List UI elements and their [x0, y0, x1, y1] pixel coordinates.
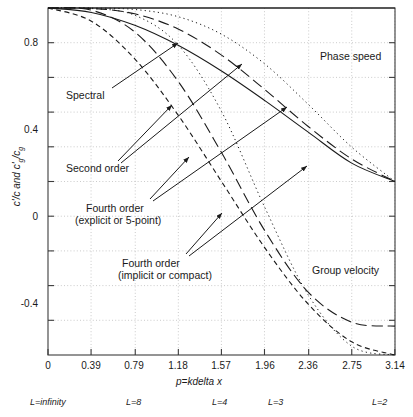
sublabel-l-4: L=4 — [212, 396, 227, 408]
x-tick-label: 2.36 — [288, 360, 328, 372]
arrow-fourth-compact-a — [186, 213, 222, 254]
arrow-fourth-compact-b — [189, 166, 307, 256]
sublabel-l-2: L=2 — [372, 396, 387, 408]
annotation-group-velocity: Group velocity — [312, 264, 379, 276]
x-axis-title-text: p=kdelta x — [176, 376, 222, 387]
y-tick-label: 0 — [8, 211, 38, 223]
annotation-spectral: Spectral — [66, 89, 105, 101]
sublabel-l-infinity: L=infinity — [30, 396, 66, 408]
chart-canvas — [0, 0, 413, 417]
annotation-phase-speed: Phase speed — [320, 50, 381, 62]
x-tick-label: 0.79 — [114, 360, 154, 372]
x-tick-label: 2.75 — [332, 360, 372, 372]
y-axis-title: c'/c and c'g/cg — [11, 132, 24, 222]
arrow-spectral — [112, 43, 178, 88]
x-tick-label: 0 — [28, 360, 68, 372]
sublabel-l-8: L=8 — [126, 396, 141, 408]
x-tick-label: 3.14 — [375, 360, 413, 372]
arrow-second-order-b — [121, 64, 242, 163]
y-tick-label: 0.8 — [8, 37, 38, 49]
arrow-fourth-explicit-b — [153, 107, 287, 201]
x-tick-label: 0.39 — [71, 360, 111, 372]
y-tick-label: -0.4 — [8, 298, 38, 310]
annotation-fourth-explicit-line1: Fourth order — [86, 202, 144, 214]
annotation-fourth-compact-line1: Fourth order — [122, 257, 180, 269]
sublabel-l-3: L=3 — [268, 396, 283, 408]
x-tick-label: 1.96 — [245, 360, 285, 372]
y-tick-label: 0.4 — [8, 124, 38, 136]
y-axis-title-text: c'/c and c'g/cg — [11, 147, 22, 206]
arrow-second-order-a — [118, 105, 172, 161]
annotation-second-order: Second order — [66, 162, 129, 174]
annotation-fourth-compact-line2: (implicit or compact) — [118, 269, 212, 281]
annotation-fourth-explicit-line2: (explicit or 5-point) — [75, 214, 161, 226]
x-tick-label: 1.18 — [158, 360, 198, 372]
figure-container: c'/c and c'g/cg 0.8 0.4 0 -0.4 -0.8 0 0.… — [0, 0, 413, 417]
arrow-fourth-explicit-a — [150, 157, 189, 199]
x-tick-label: 1.57 — [201, 360, 241, 372]
x-axis-title: p=kdelta x — [176, 376, 222, 388]
